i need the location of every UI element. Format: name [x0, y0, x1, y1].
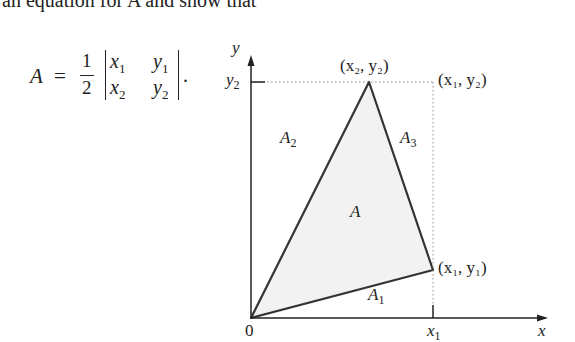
- region-A-label: A: [350, 202, 360, 222]
- tick-y2-label: y2: [226, 70, 240, 93]
- origin-label: 0: [245, 321, 254, 341]
- coordinate-figure: [0, 0, 575, 342]
- region-A1-label: A1: [368, 285, 384, 308]
- y-axis-label: y: [232, 38, 240, 58]
- triangle-A: [251, 82, 433, 318]
- point-x1-y1: (x₁, y₁): [438, 258, 487, 278]
- y-axis-arrow-icon: [248, 55, 255, 66]
- region-A2-label: A2: [280, 128, 296, 151]
- x-axis-label: x: [538, 321, 546, 341]
- point-x2-y2: (x₂, y₂): [340, 56, 389, 76]
- region-A3-label: A3: [400, 128, 416, 151]
- point-x1-y2: (x₁, y₂): [438, 70, 487, 90]
- tick-x1-label: x1: [427, 321, 441, 342]
